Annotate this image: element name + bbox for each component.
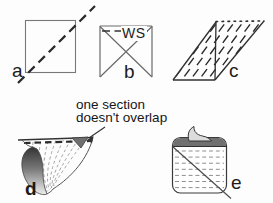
- wrong-side-label: WS: [121, 26, 147, 41]
- tube-right-edge: [53, 138, 93, 190]
- right-slant-edge: [215, 21, 264, 80]
- panel-label-a: a: [12, 61, 23, 80]
- figure-a: [18, 6, 95, 83]
- square-outline: [26, 21, 76, 73]
- tube-tip-edge: [47, 189, 53, 194]
- panel-label-c: c: [229, 61, 239, 80]
- left-slant-edge: [173, 22, 216, 80]
- non-overlap-section-tab: [72, 137, 88, 148]
- figure-e: [173, 127, 232, 199]
- panel-label-d: d: [25, 179, 37, 198]
- panel-label-e: e: [231, 173, 242, 192]
- fold-line-dashed: [18, 6, 95, 83]
- seam-line-vertical: [215, 22, 216, 80]
- panel-label-b: b: [124, 62, 135, 81]
- diagram-canvas: a b c d e WS one section doesn't overlap: [0, 0, 273, 203]
- fabric-flap: [188, 127, 211, 142]
- bias-grain-dashes: [150, 24, 271, 76]
- callout-arrow-shaft: [89, 127, 105, 138]
- callout-text: one section doesn't overlap: [76, 99, 167, 125]
- top-edge-dotted: [216, 21, 264, 22]
- figure-c: [150, 21, 271, 80]
